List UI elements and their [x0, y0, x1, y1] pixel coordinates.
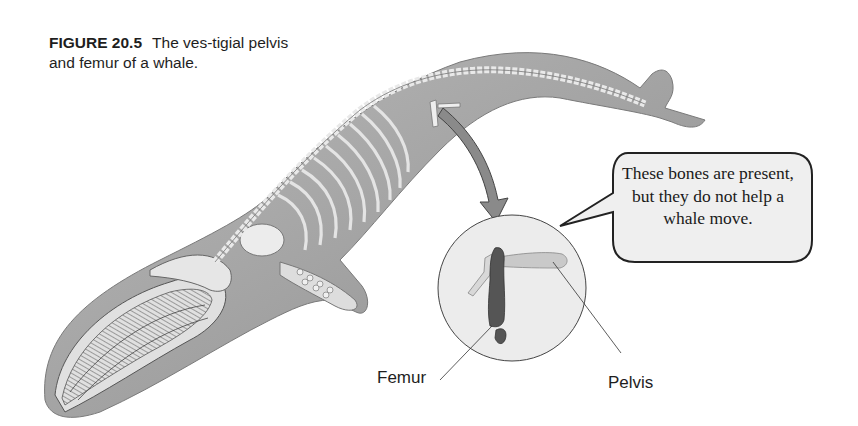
- detail-circle: [438, 215, 586, 361]
- pelvis-label: Pelvis: [608, 373, 653, 393]
- speech-bubble-text: These bones are present, but they do not…: [617, 162, 799, 230]
- pointer-arrow: [438, 108, 508, 222]
- femur-label: Femur: [377, 368, 426, 388]
- femur-bone: [488, 248, 504, 327]
